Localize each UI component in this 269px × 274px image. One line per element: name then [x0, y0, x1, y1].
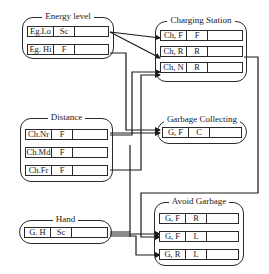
rule-row: Ch, R R	[160, 46, 243, 57]
row-slot	[208, 63, 242, 72]
row-key: Eg.Lo	[28, 27, 54, 36]
row-value: R	[186, 214, 207, 223]
row-value: C	[189, 128, 210, 137]
row-key: Ch.Fr	[26, 166, 52, 175]
row-value: F	[54, 45, 75, 54]
row-key: G, F	[160, 214, 186, 223]
group-title: Distance	[48, 112, 86, 122]
row-key: Ch, R	[161, 47, 187, 56]
row-value: R	[187, 47, 208, 56]
row-key: Ch, N	[161, 63, 187, 72]
wire-eglo-chr	[110, 32, 160, 58]
row-key: Ch.Md	[26, 148, 52, 157]
row-key: G. H	[25, 228, 51, 237]
row-value: F	[52, 166, 73, 175]
row-value: F	[187, 31, 208, 40]
rule-row: G, F R	[159, 213, 239, 224]
row-slot	[207, 232, 238, 241]
row-slot	[73, 148, 107, 157]
row-slot	[72, 228, 107, 237]
rule-row: Eg. Hi F	[27, 44, 109, 55]
rule-row: Ch, N R	[160, 62, 243, 73]
group-charging-station: Charging Station Ch, F F Ch, R R Ch, N R	[155, 21, 247, 82]
row-value: L	[186, 250, 207, 259]
row-slot	[207, 214, 238, 223]
group-title: Hand	[53, 214, 79, 224]
row-slot	[208, 47, 242, 56]
rule-row: G, F C	[162, 127, 242, 138]
rule-row: Eg.Lo Sc	[27, 26, 109, 37]
group-distance: Distance Ch.Nr F Ch.Md F Ch.Fr F	[20, 118, 113, 182]
group-title: Charging Station	[167, 15, 234, 25]
group-title: Avoid Garbage	[169, 196, 230, 206]
group-energy-level: Energy level Eg.Lo Sc Eg. Hi F	[22, 17, 114, 59]
rule-row: G. H Sc	[24, 227, 108, 238]
group-garbage-collecting: Garbage Collecting G, F C	[157, 120, 247, 144]
wire-chfr-chn	[110, 75, 160, 170]
rule-row: Ch.Nr F	[25, 129, 108, 140]
group-title: Garbage Collecting	[164, 114, 240, 124]
row-value: L	[186, 232, 207, 241]
row-slot	[73, 130, 107, 139]
row-value: Sc	[54, 27, 75, 36]
row-slot	[75, 27, 108, 36]
rule-row: Ch.Fr F	[25, 165, 108, 176]
row-key: Ch.Nr	[26, 130, 52, 139]
rule-row: Ch.Md F	[25, 147, 108, 158]
group-title: Energy level	[42, 11, 94, 21]
rule-row: G, R L	[159, 249, 239, 260]
row-value: F	[52, 148, 73, 157]
row-slot	[73, 166, 107, 175]
row-slot	[207, 250, 238, 259]
row-value: R	[187, 63, 208, 72]
fuzzy-behavior-diagram: Energy level Eg.Lo Sc Eg. Hi F Distance …	[0, 0, 269, 274]
wire-eglo-chf	[110, 32, 160, 38]
wire-chnr-chn	[110, 72, 160, 135]
row-value: Sc	[51, 228, 72, 237]
group-avoid-garbage: Avoid Garbage G, F R G, F L G, R L	[154, 202, 244, 266]
row-key: G, F	[160, 232, 186, 241]
row-key: Ch, F	[161, 31, 187, 40]
group-hand: Hand G. H Sc	[19, 220, 112, 244]
row-slot	[210, 128, 241, 137]
row-key: Eg. Hi	[28, 45, 54, 54]
wire-eghi-gf	[110, 53, 160, 130]
row-slot	[208, 31, 242, 40]
row-value: F	[52, 130, 73, 139]
rule-row: G, F L	[159, 231, 239, 242]
row-slot	[75, 45, 108, 54]
wire-hand-gr	[110, 236, 160, 255]
row-key: G, F	[163, 128, 189, 137]
rule-row: Ch, F F	[160, 30, 243, 41]
row-key: G, R	[160, 250, 186, 259]
